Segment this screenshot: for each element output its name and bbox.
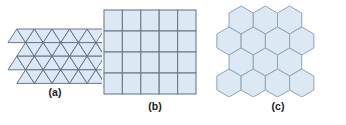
square-cell: [104, 73, 122, 94]
square-cell: [159, 31, 177, 52]
square-cell: [104, 31, 122, 52]
square-cell: [104, 52, 122, 73]
hexagon-tessellation-graphic: [215, 5, 341, 97]
triangle-cells: [8, 29, 102, 83]
square-cell: [122, 31, 140, 52]
square-cell: [104, 10, 122, 31]
square-cells: [104, 10, 196, 94]
tessellation-figure: (a) (b) (c): [0, 0, 346, 125]
panel-hexagon-tessellation: (c): [210, 0, 346, 125]
square-cell: [141, 52, 159, 73]
square-cell: [141, 10, 159, 31]
panel-triangle-tessellation: (a): [0, 0, 110, 125]
square-cell: [159, 73, 177, 94]
panel-c-caption: (c): [210, 100, 346, 112]
square-cell: [178, 10, 196, 31]
square-cell: [178, 73, 196, 94]
square-cell: [122, 52, 140, 73]
square-cell: [141, 31, 159, 52]
square-cell: [178, 52, 196, 73]
square-cell: [141, 73, 159, 94]
panel-square-tessellation: (b): [100, 0, 210, 125]
square-cell: [122, 10, 140, 31]
panel-a-caption: (a): [0, 86, 110, 98]
panel-b-caption: (b): [100, 100, 210, 112]
square-cell: [122, 73, 140, 94]
square-cell: [159, 10, 177, 31]
hexagon-cells: [217, 6, 314, 97]
square-tessellation-graphic: [103, 9, 199, 97]
triangle-tessellation-graphic: [6, 28, 102, 84]
square-cell: [178, 31, 196, 52]
square-cell: [159, 52, 177, 73]
